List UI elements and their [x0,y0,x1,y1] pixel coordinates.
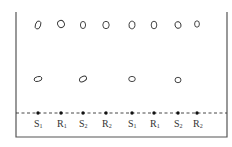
spot [195,21,200,27]
spot [129,76,136,81]
spot [34,76,43,83]
origin-dot [130,111,133,114]
lane-label: R1 [57,118,67,129]
spot [103,21,109,28]
spot [80,21,85,28]
spot [56,19,65,29]
tlc-plate-diagram: S1R1S2R2S1R1S2R2 [0,0,232,147]
lane-label: R2 [193,118,203,129]
lane-r1: R1 [150,21,160,129]
spot [174,21,182,29]
lane-s2: S2 [79,21,88,129]
origin-dot [81,111,84,114]
origin-dot [36,111,39,114]
origin-dot [152,111,155,114]
lane-label: R1 [150,118,160,129]
spot [175,77,181,82]
origin-dot [104,111,107,114]
origin-dot [59,111,62,114]
lane-s1: S1 [128,21,137,129]
spot [151,21,157,29]
lane-label: S1 [128,118,137,129]
origin-dot [195,111,198,114]
spot [79,75,88,83]
lanes: S1R1S2R2S1R1S2R2 [34,19,203,129]
lane-label: R2 [102,118,112,129]
lane-label: S2 [174,118,183,129]
origin-dot [176,111,179,114]
spot [128,21,135,30]
lane-r1: R1 [56,19,66,129]
lane-label: S2 [79,118,88,129]
lane-label: S1 [34,118,43,129]
spot [34,20,42,30]
